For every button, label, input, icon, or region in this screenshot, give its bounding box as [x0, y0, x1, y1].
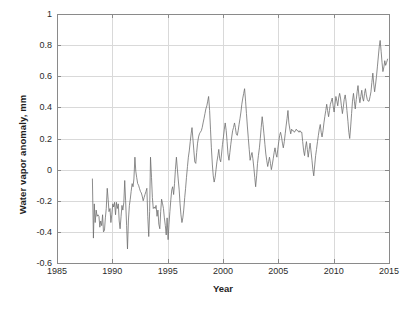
data-series-group [92, 40, 387, 249]
y-tick-label: 0.8 [39, 40, 52, 50]
x-tick-label: 2005 [268, 266, 288, 276]
series-line-0 [92, 40, 387, 249]
x-tick-label: 1995 [158, 266, 178, 276]
x-tick-label: 1990 [102, 266, 122, 276]
y-tick-label: -0.2 [36, 196, 52, 206]
x-tick-label: 2000 [213, 266, 233, 276]
y-tick-label: 0.6 [39, 71, 52, 81]
y-tick-label: 1 [47, 9, 52, 19]
chart-figure: Water vapor anomaly, mm -0.6-0.4-0.200.2… [0, 0, 414, 309]
y-axis-tick-labels: -0.6-0.4-0.200.20.40.60.81 [18, 0, 52, 309]
x-tick-label: 2010 [324, 266, 344, 276]
y-tick-label: 0.2 [39, 134, 52, 144]
plot-canvas [0, 0, 414, 309]
y-tick-label: 0 [47, 165, 52, 175]
y-tick-label: -0.4 [36, 227, 52, 237]
x-tick-label: 2015 [379, 266, 399, 276]
y-tick-label: 0.4 [39, 102, 52, 112]
x-axis-label: Year [57, 283, 389, 294]
x-tick-label: 1985 [47, 266, 67, 276]
